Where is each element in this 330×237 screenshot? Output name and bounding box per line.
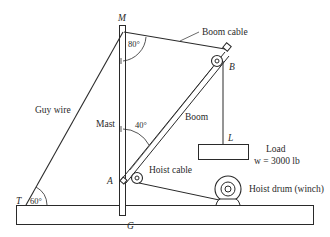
label-boom: Boom [185, 113, 208, 123]
hoist-drum [215, 176, 241, 202]
label-hoist-drum: Hoist drum (winch) [249, 185, 324, 195]
label-angle-60: 60° [30, 197, 42, 206]
label-l: L [228, 134, 233, 144]
label-t: T [16, 197, 21, 207]
mast [120, 26, 126, 216]
load-box [199, 145, 249, 160]
hoist-drum-stand [216, 199, 240, 205]
label-boom-cable: Boom cable [202, 28, 248, 38]
label-hoist-cable: Hoist cable [149, 166, 192, 176]
ground-base [17, 206, 314, 225]
angle-arc-40 [123, 129, 149, 145]
label-mast: Mast [96, 120, 115, 130]
boom-cable-leader [180, 32, 199, 41]
crane-diagram [0, 0, 330, 237]
label-load-weight: w = 3000 lb [254, 157, 300, 167]
label-a: A [107, 177, 113, 187]
boom-tip-block [223, 43, 231, 51]
label-m: M [118, 14, 126, 24]
label-angle-80: 80° [128, 40, 140, 49]
label-load: Load [266, 145, 286, 155]
label-angle-40: 40° [135, 121, 147, 130]
label-guy-wire: Guy wire [35, 106, 71, 116]
label-g: G [127, 222, 134, 232]
label-b: B [229, 63, 235, 73]
hoist-cable [139, 183, 224, 201]
